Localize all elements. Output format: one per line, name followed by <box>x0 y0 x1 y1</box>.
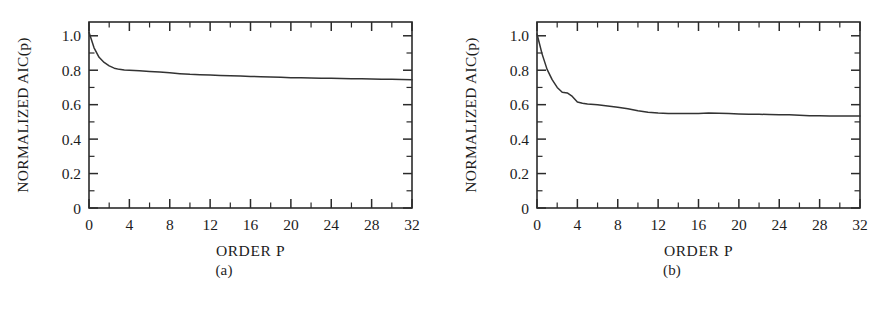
y-tick-label: 1.0 <box>510 27 530 44</box>
x-tick-label: 24 <box>772 216 788 233</box>
y-axis-title: NORMALIZED AIC(p) <box>14 37 32 192</box>
caption-b: (b) <box>448 262 896 279</box>
x-tick-label: 20 <box>731 216 747 233</box>
chart-a: 04812162024283200.20.40.60.81.0ORDER PNO… <box>0 0 448 270</box>
x-tick-label: 0 <box>85 216 93 233</box>
y-tick-label: 0 <box>73 200 81 217</box>
y-axis-title: NORMALIZED AIC(p) <box>462 37 480 192</box>
x-tick-label: 16 <box>243 216 259 233</box>
x-tick-label: 8 <box>614 216 622 233</box>
chart-b: 04812162024283200.20.40.60.81.0ORDER PNO… <box>448 0 896 270</box>
y-tick-label: 0.6 <box>62 96 82 113</box>
y-tick-label: 0.8 <box>510 62 530 79</box>
y-tick-label: 0.4 <box>62 131 82 148</box>
x-tick-label: 24 <box>324 216 340 233</box>
x-tick-label: 8 <box>166 216 174 233</box>
x-axis-title: ORDER P <box>216 242 285 259</box>
y-tick-label: 0.2 <box>510 165 529 182</box>
x-tick-label: 16 <box>691 216 707 233</box>
y-tick-label: 0.4 <box>510 131 530 148</box>
panel-a: 04812162024283200.20.40.60.81.0ORDER PNO… <box>0 0 448 315</box>
y-tick-label: 0.6 <box>510 96 530 113</box>
x-tick-label: 4 <box>574 216 582 233</box>
y-tick-label: 0.2 <box>62 165 81 182</box>
panel-b: 04812162024283200.20.40.60.81.0ORDER PNO… <box>448 0 896 315</box>
caption-a: (a) <box>0 262 448 279</box>
x-tick-label: 28 <box>812 216 828 233</box>
x-tick-label: 12 <box>202 216 218 233</box>
y-tick-label: 0 <box>521 200 529 217</box>
x-tick-label: 32 <box>852 216 868 233</box>
x-tick-label: 28 <box>364 216 380 233</box>
x-tick-label: 20 <box>283 216 299 233</box>
x-tick-label: 12 <box>650 216 666 233</box>
y-tick-label: 1.0 <box>62 27 82 44</box>
x-tick-label: 0 <box>533 216 541 233</box>
figure-row: 04812162024283200.20.40.60.81.0ORDER PNO… <box>0 0 896 315</box>
x-axis-title: ORDER P <box>664 242 733 259</box>
data-curve <box>537 34 860 116</box>
x-tick-label: 4 <box>126 216 134 233</box>
y-tick-label: 0.8 <box>62 62 82 79</box>
data-curve <box>89 32 412 79</box>
x-tick-label: 32 <box>404 216 420 233</box>
